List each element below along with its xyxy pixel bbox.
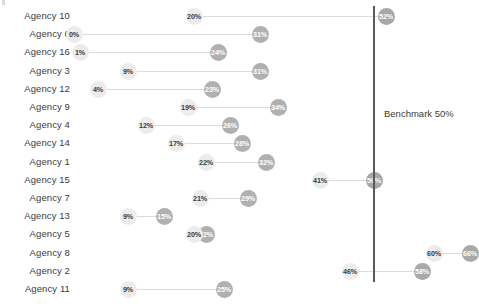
connector-line [98,89,212,90]
chart-row: Agency 522%20% [0,225,479,243]
data-point-low[interactable]: 9% [120,281,137,298]
data-point-low[interactable]: 19% [180,99,197,116]
chart-row: Agency 1223%4% [0,80,479,98]
connector-line [128,71,260,72]
connector-line [74,34,260,35]
data-point-high[interactable]: 66% [462,245,479,262]
chart-row: Agency 1052%20% [0,7,479,25]
connector-line [128,289,224,290]
category-label: Agency 12 [0,80,70,98]
connector-line [176,143,242,144]
data-point-high[interactable]: 31% [252,63,269,80]
data-point-low[interactable]: 60% [426,245,443,262]
category-label: Agency 8 [0,244,70,262]
data-point-low[interactable]: 4% [90,81,107,98]
data-point-low[interactable]: 22% [198,154,215,171]
data-point-low[interactable]: 17% [168,135,185,152]
benchmark-line [373,6,375,282]
data-point-high[interactable]: 34% [270,99,287,116]
connector-line [80,52,218,53]
category-label: Agency 3 [0,62,70,80]
data-point-low[interactable]: 41% [312,172,329,189]
category-label: Agency 16 [0,43,70,61]
category-label: Agency 7 [0,189,70,207]
chart-row: Agency 866%60% [0,244,479,262]
data-point-low[interactable]: 21% [192,190,209,207]
chart-row: Agency 1624%1% [0,43,479,61]
chart-row: Agency 631%0% [0,25,479,43]
connector-line [350,271,422,272]
chart-row: Agency 1125%9% [0,280,479,298]
data-point-high[interactable]: 23% [204,81,221,98]
category-label: Agency 14 [0,134,70,152]
data-point-low[interactable]: 12% [138,117,155,134]
chart-row: Agency 132%22% [0,153,479,171]
data-point-high[interactable]: 24% [210,44,227,61]
benchmark-label: Benchmark 50% [384,108,454,119]
chart-row: Agency 331%9% [0,62,479,80]
category-label: Agency 15 [0,171,70,189]
category-label: Agency 1 [0,153,70,171]
data-point-high[interactable]: 15% [156,208,173,225]
data-point-low[interactable]: 9% [120,208,137,225]
data-point-high[interactable]: 28% [234,135,251,152]
connector-line [188,107,278,108]
connector-line [194,16,386,17]
plot-corner-tick [2,0,5,5]
category-label: Agency 6 [0,25,70,43]
data-point-low[interactable]: 9% [120,63,137,80]
chart-row: Agency 729%21% [0,189,479,207]
chart-row: Agency 1315%9% [0,207,479,225]
data-point-low[interactable]: 0% [66,26,83,43]
category-label: Agency 10 [0,7,70,25]
data-point-high[interactable]: 31% [252,26,269,43]
data-point-high[interactable]: 26% [222,117,239,134]
data-point-high[interactable]: 25% [216,281,233,298]
category-label: Agency 5 [0,225,70,243]
category-label: Agency 9 [0,98,70,116]
category-label: Agency 13 [0,207,70,225]
chart-row: Agency 258%46% [0,262,479,280]
category-label: Agency 2 [0,262,70,280]
data-point-low[interactable]: 46% [342,263,359,280]
chart-row: Agency 1550%41% [0,171,479,189]
data-point-high[interactable]: 52% [378,8,395,25]
data-point-high[interactable]: 32% [258,154,275,171]
data-point-high[interactable]: 58% [414,263,431,280]
category-label: Agency 4 [0,116,70,134]
data-point-low[interactable]: 20% [186,8,203,25]
data-point-low[interactable]: 20% [186,226,203,243]
chart-row: Agency 1428%17% [0,134,479,152]
connector-line [146,125,230,126]
category-label: Agency 11 [0,280,70,298]
data-point-low[interactable]: 1% [72,44,89,61]
data-point-high[interactable]: 29% [240,190,257,207]
dumbbell-chart: Agency 1052%20%Agency 631%0%Agency 1624%… [0,0,479,306]
